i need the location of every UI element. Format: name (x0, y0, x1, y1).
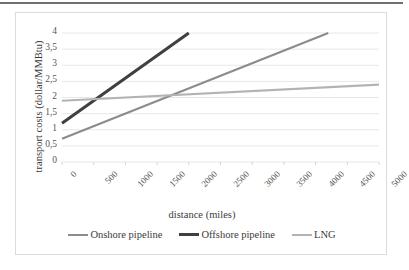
legend-label: Offshore pipeline (201, 229, 275, 240)
legend-item[interactable]: LNG (292, 229, 336, 240)
chart-legend: Onshore pipelineOffshore pipelineLNG (16, 229, 388, 240)
legend-item[interactable]: Offshore pipeline (179, 229, 275, 240)
legend-line-swatch (292, 234, 312, 236)
plot-area (16, 13, 388, 256)
chart-panel: transport costs (dollar/MMBtu) distance … (15, 12, 387, 255)
x-tick-label: 5000 (389, 169, 409, 189)
legend-line-swatch (179, 233, 199, 236)
series-line-offshore-pipeline (62, 33, 189, 123)
legend-label: LNG (314, 229, 336, 240)
series-line-lng (62, 85, 379, 101)
legend-line-swatch (68, 234, 88, 236)
legend-label: Onshore pipeline (90, 229, 162, 240)
legend-item[interactable]: Onshore pipeline (68, 229, 162, 240)
top-divider-rule (0, 2, 403, 4)
